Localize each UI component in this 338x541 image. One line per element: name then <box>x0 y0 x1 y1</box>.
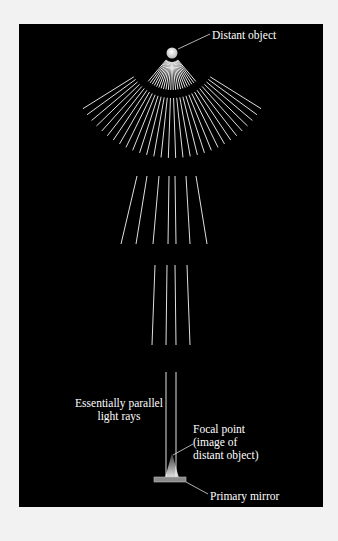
primary-mirror-leader <box>186 482 208 494</box>
focal-point-label-line3: distant object) <box>193 449 258 462</box>
parallel-rays-label-line1: Essentially parallel <box>74 397 164 410</box>
distant-object-label: Distant object <box>212 29 276 42</box>
distant-object-star-icon <box>167 48 178 59</box>
distant-object-leader <box>178 34 210 49</box>
parallel-rays-label: Essentially parallel light rays <box>74 397 164 423</box>
ray-fan-outer <box>83 77 261 158</box>
primary-mirror <box>154 477 186 482</box>
light-rays-diagram <box>0 0 338 541</box>
ray-segment-3 <box>121 176 207 244</box>
focal-point-label-line2: (image of <box>193 436 258 449</box>
focal-cone <box>165 453 179 478</box>
focal-point-label: Focal point (image of distant object) <box>193 423 258 462</box>
primary-mirror-label: Primary mirror <box>210 490 279 503</box>
parallel-rays-label-line2: light rays <box>74 410 164 423</box>
ray-fan-inner <box>148 60 196 90</box>
ray-segment-4 <box>152 265 190 345</box>
focal-point-label-line1: Focal point <box>193 423 258 436</box>
